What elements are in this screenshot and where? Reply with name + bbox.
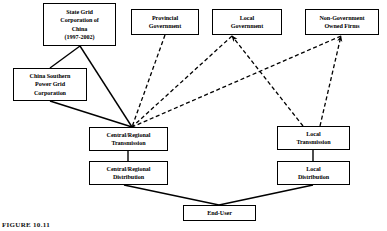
- node-provincial-government[interactable]: ProvincialGovernment: [131, 9, 199, 35]
- node-local-government[interactable]: LocalGovernment: [212, 9, 282, 35]
- node-china-southern-power-grid[interactable]: China SouthernPower GridCorporation: [13, 68, 87, 101]
- node-label: State GridCorporation ofChina(1997-2002): [46, 8, 113, 41]
- diagram-canvas: State GridCorporation ofChina(1997-2002)…: [0, 0, 387, 231]
- connector-local-trans-to-non-gov-firms: [320, 36, 341, 126]
- node-label: China SouthernPower GridCorporation: [16, 72, 84, 96]
- connector-local-dist-to-end-user: [219, 185, 313, 205]
- connector-state-grid-to-china-southern: [50, 46, 80, 68]
- node-label: LocalTransmission: [280, 130, 347, 146]
- node-label: LocalGovernment: [215, 14, 279, 30]
- node-local-distribution[interactable]: LocalDistribution: [277, 161, 350, 185]
- connector-state-grid-to-central-trans: [80, 46, 132, 127]
- node-end-user[interactable]: End-User: [183, 205, 256, 221]
- node-label: Central/RegionalDistribution: [92, 165, 165, 181]
- node-central-regional-distribution[interactable]: Central/RegionalDistribution: [89, 161, 168, 185]
- node-label: LocalDistribution: [280, 165, 347, 181]
- node-central-regional-transmission[interactable]: Central/RegionalTransmission: [89, 127, 168, 151]
- node-local-transmission[interactable]: LocalTransmission: [277, 126, 350, 150]
- node-label: ProvincialGovernment: [134, 14, 196, 30]
- connector-china-southern-to-central-trans: [50, 101, 132, 127]
- connector-local-trans-to-local-gov: [232, 36, 303, 126]
- connector-provincial-gov-to-central-trans: [132, 35, 165, 127]
- connector-local-gov-to-central-trans: [132, 36, 232, 127]
- node-label: Central/RegionalTransmission: [92, 131, 165, 147]
- connector-non-gov-firms-to-central-trans: [132, 36, 341, 127]
- figure-caption: FIGURE 10.11: [2, 221, 50, 229]
- node-label: End-User: [186, 209, 253, 217]
- node-state-grid[interactable]: State GridCorporation ofChina(1997-2002): [43, 3, 116, 46]
- connector-central-dist-to-end-user: [124, 185, 219, 205]
- node-label: Non-GovernmentOwned Firms: [308, 14, 376, 30]
- node-non-government-owned-firms[interactable]: Non-GovernmentOwned Firms: [305, 9, 379, 35]
